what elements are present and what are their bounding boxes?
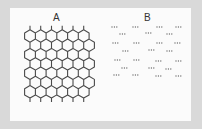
- panel-b-cluster-array: [0, 0, 202, 129]
